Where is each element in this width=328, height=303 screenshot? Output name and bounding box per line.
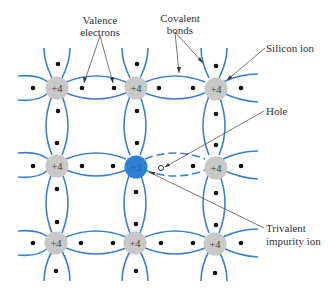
impurity-ion: +3 — [125, 156, 148, 179]
svg-text:+4: +4 — [51, 83, 63, 94]
trivalent-label-2: impurity ion — [266, 235, 321, 247]
silicon-ion: +4 — [205, 78, 228, 101]
svg-text:+4: +4 — [50, 238, 62, 249]
trivalent-label-1: Trivalent — [266, 222, 306, 234]
silicon-ion: +4 — [204, 233, 227, 256]
svg-text:+4: +4 — [130, 83, 142, 94]
ions: +4 +4 +4 +4 +3 +4 +4 +4 +4 — [45, 77, 228, 256]
hole-label: Hole — [266, 105, 288, 117]
covalent-bonds-label-1: Covalent — [160, 12, 200, 24]
silicon-ion: +4 — [46, 77, 69, 100]
valence-electrons-label-2: electrons — [80, 26, 120, 38]
svg-text:+4: +4 — [51, 161, 63, 172]
silicon-ion: +4 — [124, 232, 147, 255]
svg-text:+4: +4 — [210, 163, 222, 174]
svg-text:+4: +4 — [210, 84, 222, 95]
svg-text:+4: +4 — [129, 238, 141, 249]
silicon-ion: +4 — [45, 232, 68, 255]
covalent-bonds-label-2: bonds — [167, 24, 193, 36]
silicon-ion: +4 — [46, 155, 69, 178]
silicon-ion: +4 — [125, 77, 148, 100]
arrowheads — [83, 57, 232, 175]
lattice-svg: +4 +4 +4 +4 +3 +4 +4 +4 +4 Valence elect… — [0, 0, 328, 303]
hole-marker — [159, 166, 164, 171]
silicon-ion-label: Silicon ion — [266, 42, 314, 54]
svg-text:+3: +3 — [130, 162, 141, 173]
svg-text:+4: +4 — [209, 239, 221, 250]
valence-electrons-label-1: Valence — [83, 14, 118, 26]
leader-lines — [84, 32, 265, 228]
lattice-diagram: +4 +4 +4 +4 +3 +4 +4 +4 +4 Valence elect… — [0, 0, 328, 303]
silicon-ion: +4 — [205, 157, 228, 180]
